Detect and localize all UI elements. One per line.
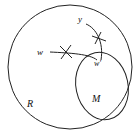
label-y: y	[78, 15, 82, 24]
region-m-ellipse	[69, 47, 134, 124]
region-r-circle	[8, 5, 132, 129]
label-m: M	[92, 94, 100, 104]
y-to-wprime-curve	[86, 24, 102, 60]
label-r: R	[27, 99, 33, 109]
cross-mark-2	[92, 32, 106, 44]
diagram-canvas	[0, 0, 140, 134]
label-w-prime: w'	[94, 60, 101, 68]
w-to-wprime-curve	[50, 52, 97, 60]
label-w: w	[37, 48, 43, 57]
cross-mark-1	[60, 45, 72, 59]
